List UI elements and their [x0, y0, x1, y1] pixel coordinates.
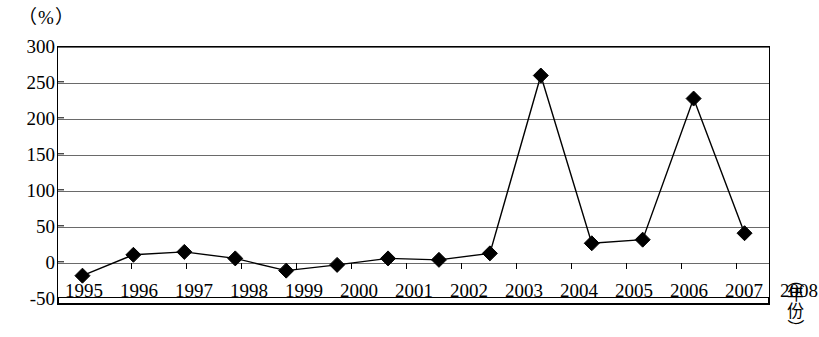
x-tick-label-2004: 2004 [560, 281, 598, 300]
x-tick-mark [681, 263, 682, 269]
y-tick-mark [57, 81, 64, 82]
x-tick-label-2001: 2001 [395, 281, 433, 300]
x-axis-right-cap [768, 298, 770, 304]
x-tick-label-1997: 1997 [175, 281, 213, 300]
x-tick-label-1995: 1995 [65, 281, 103, 300]
x-tick-mark [241, 263, 242, 269]
x-tick-mark [461, 263, 462, 269]
y-tick-label: 50 [0, 217, 55, 236]
gridline [58, 155, 769, 156]
gridline [58, 47, 769, 48]
y-tick-mark [57, 117, 64, 118]
y-axis-unit-label: （%） [18, 2, 75, 29]
y-tick-label: -50 [0, 289, 55, 308]
x-tick-mark [296, 263, 297, 269]
y-tick-mark [57, 225, 64, 226]
x-tick-mark [571, 263, 572, 269]
y-tick-label: 0 [0, 253, 55, 272]
y-tick-label: 200 [0, 109, 55, 128]
x-tick-label-1998: 1998 [230, 281, 268, 300]
gridline [58, 119, 769, 120]
y-tick-label: 150 [0, 145, 55, 164]
y-tick-mark [57, 153, 64, 154]
x-tick-label-1996: 1996 [120, 281, 158, 300]
x-tick-label-2005: 2005 [615, 281, 653, 300]
gridline [58, 191, 769, 192]
x-tick-label-1999: 1999 [285, 281, 323, 300]
x-tick-mark [406, 263, 407, 269]
x-tick-label-2007: 2007 [725, 281, 763, 300]
x-tick-label-2006: 2006 [670, 281, 708, 300]
y-tick-mark [57, 261, 64, 262]
gridline [58, 227, 769, 228]
x-axis-title-open-paren: （ [788, 264, 802, 294]
x-tick-mark [516, 263, 517, 269]
gridline [58, 83, 769, 84]
y-tick-mark [57, 189, 64, 190]
x-tick-mark [186, 263, 187, 269]
x-axis-line [57, 303, 770, 305]
chart-figure: （%） 300 250 200 150 100 50 0 -50 1995 1 [0, 0, 819, 337]
y-tick-label: 300 [0, 37, 55, 56]
x-axis-left-cap [57, 298, 59, 304]
y-tick-label: 100 [0, 181, 55, 200]
x-tick-mark [351, 263, 352, 269]
gridline [58, 263, 769, 264]
plot-area [57, 46, 770, 298]
x-tick-mark [736, 263, 737, 269]
x-tick-mark [131, 263, 132, 269]
x-tick-label-2000: 2000 [340, 281, 378, 300]
x-tick-label-2003: 2003 [505, 281, 543, 300]
x-axis-title: （ 年 份 ） [780, 272, 810, 334]
x-tick-label-2002: 2002 [450, 281, 488, 300]
x-tick-mark [626, 263, 627, 269]
x-axis-title-close-paren: ） [788, 312, 802, 337]
y-tick-label: 250 [0, 73, 55, 92]
